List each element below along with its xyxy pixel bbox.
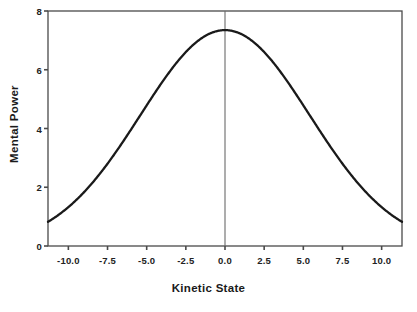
y-tick-label: 2 (22, 182, 42, 193)
x-tick-label: 5.0 (296, 255, 310, 266)
x-tick-label: -5.0 (138, 255, 155, 266)
x-tick-label: -2.5 (177, 255, 194, 266)
y-tick-label: 8 (22, 6, 42, 17)
x-tick-label: 7.5 (336, 255, 350, 266)
x-tick-label: -7.5 (99, 255, 116, 266)
y-tick-label: 0 (22, 241, 42, 252)
x-axis-title: Kinetic State (0, 282, 417, 294)
x-tick-label: 10.0 (372, 255, 391, 266)
x-tick-label: 0.0 (218, 255, 232, 266)
y-tick-label: 6 (22, 64, 42, 75)
x-tick-label: -10.0 (57, 255, 80, 266)
x-tick-label: 2.5 (257, 255, 271, 266)
y-axis-title: Mental Power (8, 64, 20, 184)
y-tick-label: 4 (22, 123, 42, 134)
chart-figure: 02468 -10.0-7.5-5.0-2.50.02.55.07.510.0 … (0, 0, 417, 312)
